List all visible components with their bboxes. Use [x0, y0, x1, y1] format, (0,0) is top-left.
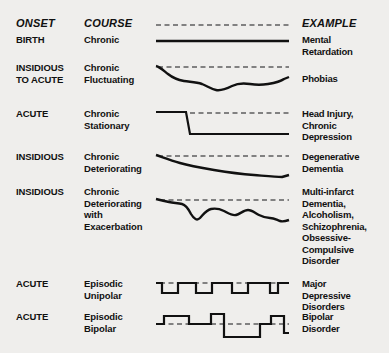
row-onset-5: ACUTE	[16, 278, 92, 290]
header-onset: ONSET	[16, 18, 92, 30]
curve-chronic-stationary	[156, 112, 289, 134]
row-example-5: Major Depressive Disorders	[302, 278, 388, 313]
row-example-3: Degenerative Dementia	[302, 151, 388, 174]
curve-chronic-fluctuating	[156, 66, 289, 90]
graph-episodic-bipolar	[156, 311, 296, 345]
course-of-illness-figure: ONSET COURSE EXAMPLE BIRTH Chronic Menta…	[0, 0, 389, 353]
row-example-1: Phobias	[302, 73, 388, 85]
row-example-0: Mental Retardation	[302, 34, 388, 57]
header-course: COURSE	[84, 18, 158, 30]
graph-episodic-unipolar	[156, 278, 296, 302]
row-course-2: Chronic Stationary	[84, 108, 158, 131]
curve-deteriorating-exacerbation	[156, 199, 289, 221]
graph-chronic-fluctuating	[156, 62, 296, 96]
curve-episodic-unipolar	[156, 283, 289, 293]
row-course-0: Chronic	[84, 34, 158, 46]
row-onset-6: ACUTE	[16, 311, 92, 323]
row-course-3: Chronic Deteriorating	[84, 151, 158, 174]
row-onset-1: INSIDIOUS TO ACUTE	[16, 62, 92, 85]
graph-deteriorating-exacerbation	[156, 194, 296, 234]
row-onset-0: BIRTH	[16, 34, 92, 46]
graph-chronic	[156, 34, 296, 50]
row-course-4: Chronic Deteriorating with Exacerbation	[84, 186, 158, 232]
curve-chronic-deteriorating	[156, 155, 289, 177]
row-example-2: Head Injury, Chronic Depression	[302, 108, 388, 143]
row-course-6: Episodic Bipolar	[84, 311, 158, 334]
header-example: EXAMPLE	[302, 18, 388, 30]
row-course-1: Chronic Fluctuating	[84, 62, 158, 85]
graph-chronic-stationary	[156, 108, 296, 142]
curve-episodic-bipolar	[156, 314, 289, 337]
row-onset-2: ACUTE	[16, 108, 92, 120]
row-onset-4: INSIDIOUS	[16, 186, 92, 198]
graph-chronic-deteriorating	[156, 151, 296, 183]
row-course-5: Episodic Unipolar	[84, 278, 158, 301]
row-onset-3: INSIDIOUS	[16, 151, 92, 163]
row-example-4: Multi-infarct Dementia, Alcoholism, Schi…	[302, 186, 388, 267]
row-example-6: Bipolar Disorder	[302, 311, 388, 334]
graph-header-baseline	[156, 18, 296, 32]
